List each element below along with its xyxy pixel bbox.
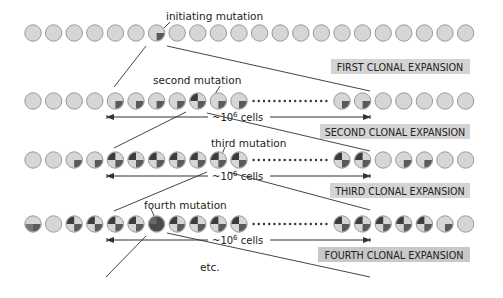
ellipsis-dot — [310, 100, 312, 102]
cell-double-mutant — [148, 152, 164, 168]
ellipsis-dot — [294, 159, 296, 161]
ellipsis-dot — [258, 159, 260, 161]
cell-double-mutant — [375, 216, 391, 232]
ellipsis-dot — [252, 223, 254, 225]
ellipsis-dot — [284, 100, 286, 102]
cell-double-mutant — [107, 152, 123, 168]
cell — [190, 25, 206, 41]
cell-single-mutant — [148, 93, 164, 109]
cell — [25, 25, 41, 41]
ellipsis-dot — [299, 159, 301, 161]
cell-double-mutant — [169, 152, 185, 168]
ellipsis-dot — [325, 223, 327, 225]
cell — [354, 25, 370, 41]
ellipsis-dot — [320, 223, 322, 225]
ellipsis-dot — [325, 100, 327, 102]
ellipsis-dot — [304, 223, 306, 225]
cell — [87, 25, 103, 41]
expansion-banner-1: FIRST CLONAL EXPANSION — [331, 59, 470, 74]
cell-double-mutant — [169, 216, 185, 232]
cell-single-mutant — [334, 93, 350, 109]
cell-count-label: ~106 cells — [212, 170, 263, 182]
ellipsis-dot — [284, 159, 286, 161]
ellipsis-dot — [304, 100, 306, 102]
ellipsis-dot — [268, 223, 270, 225]
ellipsis-dot — [252, 100, 254, 102]
cell — [210, 152, 226, 168]
cell — [437, 25, 453, 41]
ellipsis-dot — [304, 159, 306, 161]
cell — [396, 25, 412, 41]
cell — [457, 93, 473, 109]
cell-double-mutant — [334, 216, 350, 232]
ellipsis-dot — [289, 100, 291, 102]
ellipsis-dot — [310, 159, 312, 161]
ellipsis-dot — [263, 223, 265, 225]
cell — [334, 25, 350, 41]
cell-double-mutant — [416, 216, 432, 232]
ellipsis-dot — [294, 100, 296, 102]
cell — [45, 152, 61, 168]
expansion-label-2: SECOND CLONAL EXPANSION — [325, 127, 466, 138]
cell-single-mutant — [354, 93, 370, 109]
cell-double-mutant — [190, 152, 206, 168]
cell-double-mutant — [231, 152, 247, 168]
cell-single-mutant — [231, 93, 247, 109]
cell — [251, 25, 267, 41]
cell-double-mutant — [128, 216, 144, 232]
ellipsis-dot — [258, 100, 260, 102]
expansion-label-4: FOURTH CLONAL EXPANSION — [325, 250, 464, 261]
ellipsis-dot — [258, 223, 260, 225]
cell-double-mutant — [66, 216, 82, 232]
ellipsis-dot — [315, 223, 317, 225]
cell — [45, 93, 61, 109]
ellipsis-dot — [320, 100, 322, 102]
cell — [457, 152, 473, 168]
cell — [375, 25, 391, 41]
expansion-banner-4: FOURTH CLONAL EXPANSION — [318, 247, 470, 262]
second-mutation-label: second mutation — [153, 74, 241, 86]
ellipsis-dot — [325, 159, 327, 161]
cell — [107, 25, 123, 41]
cell — [45, 216, 61, 232]
ellipsis-dot — [310, 223, 312, 225]
expansion-banner-3: THIRD CLONAL EXPANSION — [330, 183, 470, 198]
cell-double-mutant — [190, 93, 206, 109]
cell-single-mutant — [169, 93, 185, 109]
cell — [416, 25, 432, 41]
cell-single-mutant — [107, 93, 123, 109]
cell — [25, 93, 41, 109]
etc-label: etc. — [200, 261, 220, 273]
cell — [375, 152, 391, 168]
clonal-expansion-diagram: FIRST CLONAL EXPANSION SECOND CLONAL EXP… — [0, 0, 503, 298]
ellipsis-dot — [289, 159, 291, 161]
ellipsis-dot — [299, 100, 301, 102]
ellipsis-dot — [252, 159, 254, 161]
cell-double-mutant — [87, 216, 103, 232]
ellipsis-dot — [278, 100, 280, 102]
cell — [293, 25, 309, 41]
ellipsis-dot — [278, 159, 280, 161]
cell — [375, 93, 391, 109]
cell — [457, 216, 473, 232]
cell-single-mutant — [210, 93, 226, 109]
cell-double-mutant — [396, 216, 412, 232]
cell-double-mutant — [107, 216, 123, 232]
ellipsis-dot — [299, 223, 301, 225]
cell — [396, 93, 412, 109]
cell-count-label: ~106 cells — [212, 111, 263, 123]
ellipsis-dot — [284, 223, 286, 225]
ellipsis-dot — [294, 223, 296, 225]
cell-single-mutant — [396, 152, 412, 168]
cell — [437, 152, 453, 168]
cell — [66, 93, 82, 109]
cell — [313, 25, 329, 41]
cell-single-mutant — [87, 152, 103, 168]
ellipsis-dot — [273, 159, 275, 161]
cell-single-mutant — [148, 25, 164, 41]
expansion-label-1: FIRST CLONAL EXPANSION — [337, 62, 464, 73]
cell-double-mutant — [231, 216, 247, 232]
cell-double-mutant — [190, 216, 206, 232]
ellipsis-dot — [268, 159, 270, 161]
cell — [25, 152, 41, 168]
